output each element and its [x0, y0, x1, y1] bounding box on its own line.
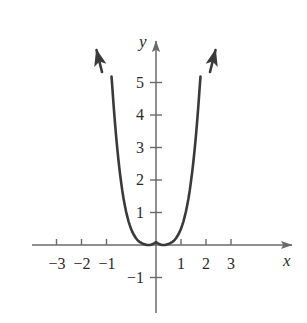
curve-arrow-right	[210, 50, 216, 72]
y-tick-label-4: 4	[114, 107, 144, 123]
y-tick-label-1: 1	[114, 205, 144, 221]
y-tick-label-5: 5	[114, 75, 144, 91]
x-axis-label: x	[283, 252, 291, 269]
x-tick-label--3: −3	[48, 256, 65, 272]
y-tick-label--1: −1	[108, 270, 144, 286]
plot-canvas	[0, 0, 307, 323]
function-graph-figure: −3 −2 −1 1 2 3 1 2 3 4 5 −1 x y	[0, 0, 307, 323]
x-tick-label-3: 3	[227, 256, 235, 272]
x-tick-label--2: −2	[73, 256, 90, 272]
curve-arrow-left	[97, 50, 103, 72]
x-tick-label-2: 2	[202, 256, 210, 272]
y-tick-label-2: 2	[114, 172, 144, 188]
x-tick-label-1: 1	[177, 256, 185, 272]
y-axis-label: y	[139, 33, 147, 50]
y-tick-label-3: 3	[114, 140, 144, 156]
